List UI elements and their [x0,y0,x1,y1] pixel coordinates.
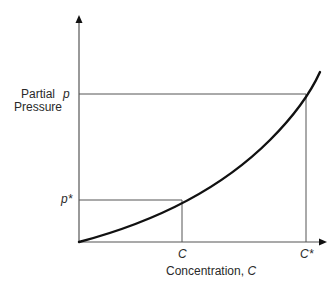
equilibrium-curve [79,72,320,242]
y-tick-pstar: p* [61,193,72,206]
x-axis-label-text: Concentration, [166,264,247,278]
x-axis-arrow-icon [319,239,327,246]
y-tick-p: p [63,88,70,101]
x-axis-label-var: C [247,264,256,278]
y-axis-label-line2: Pressure [12,101,64,114]
y-axis-arrow-icon [76,15,83,23]
x-tick-cstar: C* [300,248,313,261]
x-tick-c: C [178,248,187,261]
x-axis-label: Concentration, C [166,265,256,278]
diagram-canvas [0,0,336,290]
y-axis-label: Partial Pressure [12,88,64,114]
